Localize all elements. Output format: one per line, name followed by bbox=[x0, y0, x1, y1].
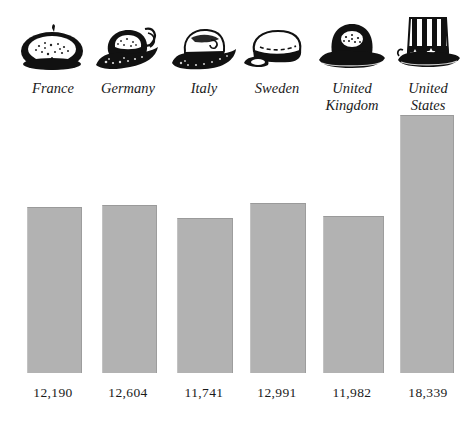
category-label-united-states: United States bbox=[382, 80, 474, 114]
uncle-sam-top-hat-icon bbox=[393, 8, 463, 72]
bar-chart: France 12,190 bbox=[0, 0, 476, 422]
flat-cap-icon bbox=[240, 19, 314, 73]
chart-column-united-states: United States 18,339 bbox=[382, 0, 474, 422]
bar-france bbox=[27, 207, 82, 373]
fedora-hat-icon bbox=[167, 18, 241, 74]
bar-united-kingdom bbox=[323, 216, 384, 373]
tyrolean-hat-icon bbox=[90, 17, 166, 75]
bar-sweden bbox=[250, 203, 306, 373]
value-label-united-states: 18,339 bbox=[378, 385, 476, 401]
bar-italy bbox=[177, 218, 233, 373]
bar-germany bbox=[102, 205, 157, 373]
beret-hat-icon bbox=[17, 22, 89, 74]
bar-united-states bbox=[400, 115, 454, 373]
bowler-hat-icon bbox=[315, 14, 389, 74]
